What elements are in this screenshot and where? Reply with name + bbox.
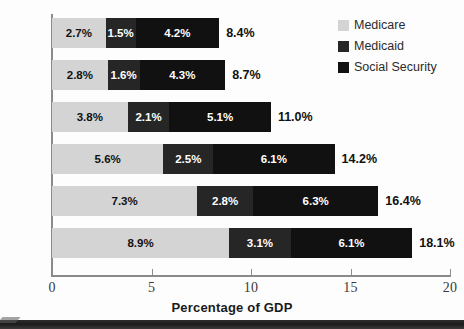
bar-segment-medicare: 8.9%: [52, 228, 229, 258]
bar-segment-social-security: 4.2%: [136, 18, 220, 48]
x-tick: [351, 269, 352, 277]
legend-item-social-security: Social Security: [338, 58, 462, 76]
bar-total-label: 8.7%: [225, 60, 261, 90]
bar-row: 20407.3%2.8%6.3%16.4%: [52, 186, 450, 216]
chart-container: 20052.7%1.5%4.2%8.4%20102.8%1.6%4.3%8.7%…: [0, 0, 464, 329]
x-axis-title: Percentage of GDP: [0, 300, 464, 315]
x-tick: [52, 269, 53, 277]
legend-swatch-social-security: [338, 62, 349, 73]
legend-item-medicaid: Medicaid: [338, 37, 462, 55]
bar-total-label: 11.0%: [271, 102, 313, 132]
bar-segment-medicare: 7.3%: [52, 186, 197, 216]
bar-segment-social-security: 5.1%: [169, 102, 270, 132]
bar-segment-medicaid: 2.1%: [128, 102, 170, 132]
bar-segment-medicare: 3.8%: [52, 102, 128, 132]
x-tick-label: 0: [48, 280, 55, 296]
legend-item-medicare: Medicare: [338, 16, 462, 34]
bar-row: 20305.6%2.5%6.1%14.2%: [52, 144, 450, 174]
x-tick-label: 15: [343, 280, 357, 296]
x-tick: [152, 269, 153, 277]
bar-segment-medicare: 2.7%: [52, 18, 106, 48]
x-tick-label: 5: [148, 280, 155, 296]
legend-label-medicaid: Medicaid: [354, 39, 404, 53]
chart-legend: Medicare Medicaid Social Security: [338, 16, 462, 79]
bar-total-label: 8.4%: [219, 18, 255, 48]
bar-segment-social-security: 6.3%: [253, 186, 378, 216]
bar-segment-medicaid: 2.5%: [163, 144, 213, 174]
legend-swatch-medicaid: [338, 41, 349, 52]
bar-total-label: 18.1%: [412, 228, 454, 258]
bar-segment-medicare: 2.8%: [52, 60, 108, 90]
bar-total-label: 14.2%: [335, 144, 377, 174]
legend-swatch-medicare: [338, 20, 349, 31]
x-tick: [251, 269, 252, 277]
bar-segment-medicaid: 2.8%: [197, 186, 253, 216]
bar-segment-medicare: 5.6%: [52, 144, 163, 174]
bar-row: 20508.9%3.1%6.1%18.1%: [52, 228, 450, 258]
x-tick: [450, 269, 451, 277]
bar-segment-medicaid: 3.1%: [229, 228, 291, 258]
bar-row: 20203.8%2.1%5.1%11.0%: [52, 102, 450, 132]
bar-segment-medicaid: 1.5%: [106, 18, 136, 48]
bar-segment-medicaid: 1.6%: [108, 60, 140, 90]
bar-total-label: 16.4%: [378, 186, 420, 216]
legend-label-medicare: Medicare: [354, 18, 405, 32]
image-bottom-border: [0, 320, 464, 329]
legend-label-social-security: Social Security: [354, 60, 437, 74]
x-tick-label: 20: [443, 280, 457, 296]
bar-segment-social-security: 6.1%: [213, 144, 334, 174]
bar-segment-social-security: 4.3%: [140, 60, 226, 90]
bar-segment-social-security: 6.1%: [291, 228, 412, 258]
x-tick-label: 10: [244, 280, 258, 296]
